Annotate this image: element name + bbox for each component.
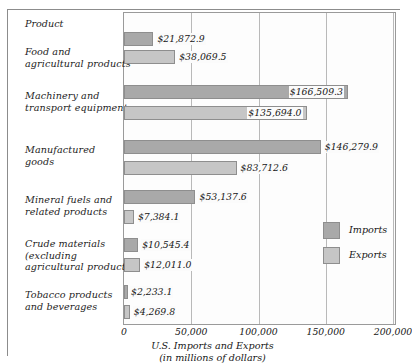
bar-imports [124, 190, 195, 204]
category-label-line: agricultural products) [25, 261, 137, 273]
legend-swatch-imports [323, 222, 340, 239]
category-label-line: Machinery and [25, 90, 137, 102]
bar-value-label: $12,011.0 [143, 259, 192, 271]
bar-imports [124, 238, 138, 252]
x-tick-label: 200,000 [374, 326, 412, 337]
bar-imports [124, 285, 128, 299]
category-label: Machinery andtransport equipment [25, 90, 137, 113]
category-label-line: Food and [25, 46, 137, 58]
gridline-200000 [393, 13, 394, 324]
category-label-line: related products [25, 206, 137, 218]
category-label: Crude materials(excludingagricultural pr… [25, 238, 137, 273]
x-tick-label: 50,000 [175, 326, 208, 337]
bar-value-label: $53,137.6 [198, 191, 247, 203]
bar-exports [124, 50, 175, 64]
category-label-line: Crude materials [25, 238, 137, 250]
category-axis-heading: Product [25, 18, 63, 29]
bar-value-label: $7,384.1 [137, 211, 180, 223]
x-tick-label: 100,000 [239, 326, 277, 337]
bar-value-label: $21,872.9 [156, 33, 205, 45]
bar-imports [124, 140, 321, 154]
category-label-line: and beverages [25, 301, 137, 313]
category-label-line: goods [25, 156, 137, 168]
legend-label: Exports [349, 249, 387, 260]
category-label: Manufacturedgoods [25, 144, 137, 167]
bar-value-label: $10,545.4 [141, 239, 190, 251]
gridline-150000 [326, 13, 327, 324]
legend-label: Imports [349, 224, 387, 235]
x-axis-title-line2: (in millions of dollars) [16, 352, 409, 363]
bar-value-label: $166,509.3 [289, 86, 344, 98]
category-label-line: (excluding [25, 250, 137, 262]
bar-exports [124, 210, 134, 224]
bar-value-label: $38,069.5 [178, 51, 227, 63]
bar-imports [124, 32, 153, 46]
bar-value-label: $135,694.0 [247, 107, 302, 119]
category-label-line: Mineral fuels and [25, 194, 137, 206]
bar-exports [124, 258, 140, 272]
chart-figure: Product Food andagricultural productsMac… [7, 9, 400, 356]
x-tick-label: 0 [121, 326, 127, 337]
bar-value-label: $146,279.9 [324, 141, 379, 153]
legend-swatch-exports [323, 247, 340, 264]
category-label-line: agricultural products [25, 58, 137, 70]
category-label-line: transport equipment [25, 102, 137, 114]
bar-value-label: $83,712.6 [240, 162, 289, 174]
category-label: Tobacco productsand beverages [25, 289, 137, 312]
category-label: Food andagricultural products [25, 46, 137, 69]
category-label: Mineral fuels andrelated products [25, 194, 137, 217]
bar-value-label: $4,269.8 [133, 306, 176, 318]
bar-exports [124, 161, 237, 175]
x-axis-title-line1: U.S. Imports and Exports [16, 340, 409, 351]
bar-exports [124, 305, 130, 319]
category-label-line: Tobacco products [25, 289, 137, 301]
x-tick-label: 150,000 [307, 326, 345, 337]
bar-value-label: $2,233.1 [130, 286, 173, 298]
category-label-line: Manufactured [25, 144, 137, 156]
